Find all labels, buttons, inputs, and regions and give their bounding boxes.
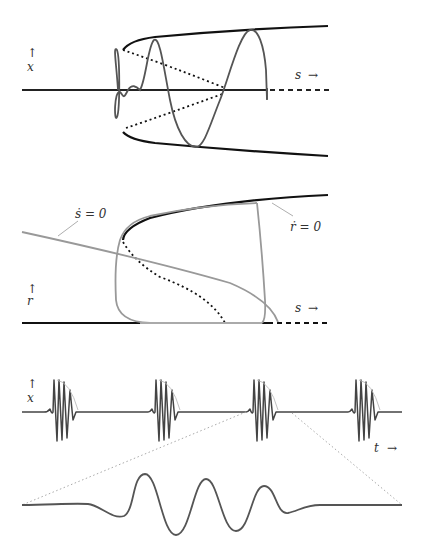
panel1-unstable-upper: [123, 50, 225, 88]
panel3-x-arrow: →: [387, 441, 397, 455]
panel2-nullcline-r: [257, 203, 265, 323]
panel2-unstable-branch: [123, 242, 225, 323]
panel2-label-leader-s: [58, 221, 78, 236]
panel1-x-label: s: [295, 68, 301, 82]
panel2-nullcline-r-label: ṙ = 0: [290, 220, 321, 234]
panel2-nullcline-s-label: ṡ = 0: [75, 207, 107, 221]
panel2-nullcline-s: [22, 232, 278, 322]
panel2-x-arrow: →: [308, 301, 318, 315]
panel3-zoom-guide-right: [292, 413, 402, 505]
panel2-y-label: r: [27, 294, 34, 308]
panel3-envelope: [57, 380, 380, 410]
panel2-x-label: s: [295, 301, 301, 315]
bifurcation-figure: ↑ x s → ṡ = 0 ṙ = 0 ↑ r s →: [0, 0, 424, 556]
panel-1-phase-portrait-x-s: ↑ x s →: [22, 26, 330, 156]
panel2-label-leader-r: [272, 203, 293, 216]
panel1-trajectory: [115, 30, 267, 147]
panel1-y-arrow: ↑: [27, 46, 37, 60]
panel3-magnified-burst: [22, 474, 402, 535]
panel3-x-label: t: [374, 441, 379, 455]
panel-3-time-series: ↑ x t →: [22, 377, 402, 535]
panel3-y-label: x: [27, 391, 34, 405]
panel1-lower-branch: [123, 132, 328, 156]
panel1-y-label: x: [27, 60, 34, 74]
panel1-upper-branch: [123, 26, 328, 50]
panel2-limit-cycle: [116, 203, 258, 323]
panel3-time-series-trace: [22, 380, 402, 441]
panel1-x-arrow: →: [308, 68, 318, 82]
panel-2-phase-portrait-r-s: ṡ = 0 ṙ = 0 ↑ r s →: [22, 195, 330, 323]
panel3-y-arrow: ↑: [27, 377, 37, 391]
